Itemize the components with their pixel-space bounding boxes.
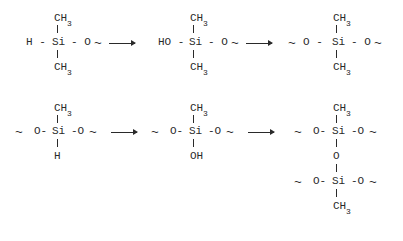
subscript: 3 <box>67 69 72 77</box>
oxygen-right: -O <box>208 126 221 137</box>
methyl-top: CH <box>190 13 203 24</box>
chain-tilde: ~ <box>288 38 296 49</box>
subscript: 3 <box>67 110 72 118</box>
bond <box>336 25 337 33</box>
bond <box>57 25 58 33</box>
methyl-bottom: CH <box>333 201 346 212</box>
silicon: Si <box>52 126 65 137</box>
oxygen-left: O- <box>34 126 47 137</box>
hydroxyl-bottom: OH <box>190 151 203 162</box>
oxygen-right: -O <box>351 126 364 137</box>
silicon: Si <box>189 126 202 137</box>
silicon: Si <box>52 37 65 48</box>
silicon: Si <box>332 176 345 187</box>
chain-tilde: ~ <box>94 38 102 49</box>
hydrogen-bottom: H <box>54 151 61 162</box>
subscript: 3 <box>67 20 72 28</box>
bond <box>336 115 337 123</box>
chain-tilde: ~ <box>15 127 23 138</box>
oxygen-left: O- <box>313 126 326 137</box>
bond <box>336 189 337 197</box>
subscript: 3 <box>203 20 208 28</box>
methyl-top: CH <box>333 13 346 24</box>
chain-tilde: ~ <box>231 38 239 49</box>
methyl-bottom: CH <box>190 62 203 73</box>
hydroxyl-left: HO - <box>158 37 184 48</box>
bond <box>57 50 58 58</box>
chain-tilde: ~ <box>226 127 234 138</box>
reaction-arrow <box>248 132 274 133</box>
methyl-top: CH <box>54 103 67 114</box>
bond <box>57 139 58 147</box>
bond <box>193 50 194 58</box>
oxygen-right: - O <box>208 37 228 48</box>
reaction-arrow <box>109 43 135 44</box>
reaction-arrow <box>246 43 272 44</box>
bond <box>193 139 194 147</box>
subscript: 3 <box>346 20 351 28</box>
oxygen-left: O - <box>303 37 323 48</box>
methyl-top: CH <box>190 103 203 114</box>
hydrogen-left: H - <box>26 37 46 48</box>
oxygen-left: O- <box>170 126 183 137</box>
oxygen-right: - O <box>351 37 371 48</box>
chain-tilde: ~ <box>369 177 377 188</box>
silicon: Si <box>332 126 345 137</box>
chain-tilde: ~ <box>369 127 377 138</box>
oxygen-left: O- <box>313 176 326 187</box>
bond <box>336 139 337 147</box>
subscript: 3 <box>346 110 351 118</box>
bond <box>336 164 337 172</box>
methyl-bottom: CH <box>54 62 67 73</box>
reaction-arrow <box>111 132 137 133</box>
subscript: 3 <box>203 110 208 118</box>
silicon: Si <box>332 37 345 48</box>
chain-tilde: ~ <box>151 127 159 138</box>
methyl-bottom: CH <box>333 62 346 73</box>
chain-tilde: ~ <box>294 177 302 188</box>
bond <box>57 115 58 123</box>
oxygen-right: -O <box>351 176 364 187</box>
chain-tilde: ~ <box>89 127 97 138</box>
chain-tilde: ~ <box>294 127 302 138</box>
subscript: 3 <box>203 69 208 77</box>
oxygen-right: - O <box>71 37 91 48</box>
bond <box>336 50 337 58</box>
methyl-top: CH <box>54 13 67 24</box>
methyl-top: CH <box>333 103 346 114</box>
bond <box>193 115 194 123</box>
bond <box>193 25 194 33</box>
bridging-oxygen: O <box>333 151 340 162</box>
subscript: 3 <box>346 69 351 77</box>
chain-tilde: ~ <box>374 38 382 49</box>
oxygen-right: -O <box>71 126 84 137</box>
silicon: Si <box>189 37 202 48</box>
subscript: 3 <box>346 208 351 216</box>
